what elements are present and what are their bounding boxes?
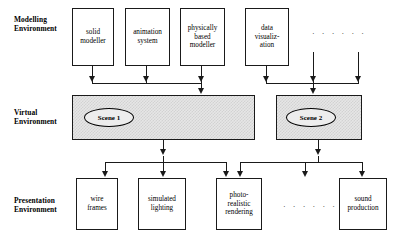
bus-drop-animation-system bbox=[146, 78, 147, 84]
modelling-ellipsis: · · · · · · bbox=[312, 30, 367, 38]
node-data-visualization: data visualiz- ation bbox=[245, 8, 289, 66]
tier-label-presentation: Presentation Environment bbox=[14, 196, 57, 214]
arrowhead-sound-production bbox=[359, 171, 365, 177]
arrowhead-photo-realistic-left bbox=[223, 171, 229, 177]
bus-trunk-scene2-out bbox=[318, 156, 319, 163]
scene-box-2: Scene 2 bbox=[276, 95, 362, 140]
bus-drop-extra-source-2 bbox=[358, 78, 359, 84]
node-solid-modeller: solid modeller bbox=[72, 8, 114, 66]
scene-1-label: Scene 1 bbox=[84, 108, 134, 127]
connector-extra-source-1-down bbox=[313, 52, 314, 78]
scene-2-label: Scene 2 bbox=[286, 108, 336, 127]
connector-extra-source-2-down bbox=[358, 52, 359, 78]
arrowhead-scene2-out bbox=[315, 149, 321, 155]
arrowhead-into-scene1 bbox=[198, 88, 204, 94]
arrowhead-ellipsis-presentation bbox=[302, 171, 308, 177]
arrowhead-scene1-out bbox=[160, 149, 166, 155]
scene-box-1: Scene 1 bbox=[72, 95, 255, 140]
tier-label-virtual: Virtual Environment bbox=[14, 108, 57, 126]
node-sound-production: sound production bbox=[339, 178, 387, 230]
tier-label-modelling: Modelling Environment bbox=[14, 15, 57, 33]
arrowhead-photo-realistic-right bbox=[237, 171, 243, 177]
node-physically-based-modeller: physically based modeller bbox=[180, 8, 225, 66]
bus-scene2-to-presentation bbox=[240, 162, 363, 163]
bus-drop-data-visualization bbox=[266, 78, 267, 84]
node-wire-frames: wire frames bbox=[76, 178, 118, 230]
node-animation-system: animation system bbox=[125, 8, 170, 66]
node-photo-realistic-rendering: photo- realistic rendering bbox=[216, 178, 262, 230]
node-simulated-lighting: simulated lighting bbox=[138, 178, 186, 230]
presentation-ellipsis: · · · · · · bbox=[283, 203, 338, 211]
arrowhead-into-scene2 bbox=[310, 88, 316, 94]
system-architecture-diagram: Modelling Environment Virtual Environmen… bbox=[0, 0, 401, 236]
bus-scene1-to-presentation bbox=[105, 162, 226, 163]
arrowhead-simulated-lighting bbox=[160, 171, 166, 177]
arrowhead-wire-frames bbox=[102, 171, 108, 177]
bus-drop-solid-modeller bbox=[92, 78, 93, 84]
